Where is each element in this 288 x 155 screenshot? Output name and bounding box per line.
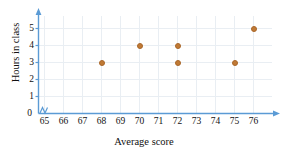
data-point bbox=[137, 43, 143, 49]
x-tick-label-75: 75 bbox=[226, 116, 244, 126]
x-tick-label-68: 68 bbox=[93, 116, 111, 126]
x-tick-label-69: 69 bbox=[112, 116, 130, 126]
data-point bbox=[232, 60, 238, 66]
vertical-gridlines bbox=[45, 16, 254, 113]
y-axis bbox=[36, 8, 42, 114]
scatter-plot-figure: Hours in class Average score 0 1 2 3 4 5… bbox=[0, 0, 288, 155]
x-tick-label-71: 71 bbox=[150, 116, 168, 126]
x-tick-label-72: 72 bbox=[169, 116, 187, 126]
x-tick-label-67: 67 bbox=[74, 116, 92, 126]
x-tick-label-66: 66 bbox=[55, 116, 73, 126]
x-tick-label-74: 74 bbox=[207, 116, 225, 126]
axis-break-icon bbox=[40, 108, 48, 114]
y-tick-label-1: 1 bbox=[20, 91, 34, 101]
y-tick-label-2: 2 bbox=[20, 74, 34, 84]
y-tick-label-5: 5 bbox=[20, 23, 34, 33]
data-point bbox=[175, 43, 181, 49]
y-axis-title: Hours in class bbox=[10, 5, 21, 101]
x-tick-label-70: 70 bbox=[131, 116, 149, 126]
y-tick-label-4: 4 bbox=[20, 40, 34, 50]
x-axis-title: Average score bbox=[0, 136, 288, 147]
data-point bbox=[99, 60, 105, 66]
x-tick-label-73: 73 bbox=[188, 116, 206, 126]
y-tick-label-3: 3 bbox=[20, 57, 34, 67]
x-tick-label-76: 76 bbox=[245, 116, 263, 126]
data-point bbox=[175, 60, 181, 66]
data-point bbox=[251, 26, 257, 32]
plot-canvas bbox=[0, 0, 288, 155]
origin-label: 0 bbox=[18, 108, 32, 118]
x-tick-label-65: 65 bbox=[36, 116, 54, 126]
